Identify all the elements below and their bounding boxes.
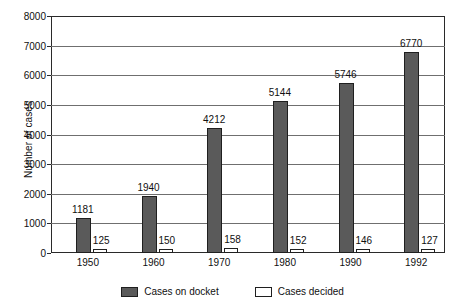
bar-value-label-cases-on-docket: 1940 <box>137 183 159 193</box>
bar-cases-decided <box>356 249 370 253</box>
chart-legend: Cases on docket Cases decided <box>0 286 465 297</box>
gridline <box>51 164 445 165</box>
bar-value-label-cases-decided: 125 <box>93 236 110 246</box>
bar-group: 6770127 <box>404 16 438 253</box>
gridline <box>51 105 445 106</box>
bar-value-label-cases-decided: 127 <box>421 236 438 246</box>
x-axis-tick-label: 1950 <box>77 257 99 268</box>
x-axis-tick-label: 1960 <box>142 257 164 268</box>
bar-group: 1940150 <box>142 16 176 253</box>
legend-item-cases-on-docket: Cases on docket <box>121 286 219 297</box>
gridline <box>51 75 445 76</box>
y-axis-tick-mark <box>47 164 51 165</box>
y-axis-tick-mark <box>47 223 51 224</box>
y-axis-tick-mark <box>47 46 51 47</box>
y-axis-tick-mark <box>47 253 51 254</box>
y-axis-tick-label: 2000 <box>24 188 46 199</box>
y-axis-tick-label: 7000 <box>24 40 46 51</box>
bar-group: 5144152 <box>273 16 307 253</box>
bar-cases-decided <box>421 249 435 253</box>
gridline <box>51 46 445 47</box>
bar-value-label-cases-on-docket: 1181 <box>72 205 94 215</box>
bar-value-label-cases-decided: 158 <box>224 235 241 245</box>
legend-swatch-filled-icon <box>121 287 138 297</box>
x-axis-tick-label: 1970 <box>208 257 230 268</box>
gridline <box>51 194 445 195</box>
bar-cases-on-docket <box>404 52 419 253</box>
x-axis-tick-label: 1980 <box>274 257 296 268</box>
y-axis-tick-mark <box>47 16 51 17</box>
y-axis-tick-label: 4000 <box>24 129 46 140</box>
bar-chart: Number of cases 010002000300040005000600… <box>0 0 465 307</box>
y-axis-tick-mark <box>47 75 51 76</box>
bar-cases-on-docket <box>76 218 91 253</box>
bar-cases-on-docket <box>207 128 222 253</box>
bar-value-label-cases-on-docket: 4212 <box>203 115 225 125</box>
bar-cases-decided <box>224 248 238 253</box>
bar-cases-decided <box>93 249 107 253</box>
plot-area: 010002000300040005000600070008000 118112… <box>51 16 445 253</box>
bar-value-label-cases-decided: 152 <box>290 236 307 246</box>
bar-value-label-cases-decided: 146 <box>356 236 373 246</box>
legend-label-cases-decided: Cases decided <box>278 286 344 297</box>
legend-item-cases-decided: Cases decided <box>255 286 344 297</box>
bar-cases-decided <box>159 249 173 253</box>
x-axis-tick-label: 1990 <box>339 257 361 268</box>
bar-value-label-cases-on-docket: 6770 <box>400 39 422 49</box>
y-axis-tick-label: 6000 <box>24 70 46 81</box>
y-axis-tick-label: 3000 <box>24 159 46 170</box>
y-axis-tick-mark <box>47 194 51 195</box>
bar-value-label-cases-decided: 150 <box>159 236 176 246</box>
bar-group: 4212158 <box>207 16 241 253</box>
bar-value-label-cases-on-docket: 5144 <box>269 88 291 98</box>
bar-cases-decided <box>290 249 304 254</box>
bar-group: 5746146 <box>339 16 373 253</box>
legend-swatch-outline-icon <box>255 287 272 297</box>
y-axis-tick-label: 5000 <box>24 99 46 110</box>
x-axis-tick-label: 1992 <box>405 257 427 268</box>
y-axis-tick-mark <box>47 135 51 136</box>
y-axis-tick-mark <box>47 105 51 106</box>
bar-cases-on-docket <box>142 196 157 253</box>
y-axis-tick-label: 1000 <box>24 218 46 229</box>
gridline <box>51 135 445 136</box>
bar-cases-on-docket <box>339 83 354 253</box>
bar-group: 1181125 <box>76 16 110 253</box>
legend-label-cases-on-docket: Cases on docket <box>144 286 219 297</box>
gridline <box>51 223 445 224</box>
y-axis-tick-label: 0 <box>40 248 46 259</box>
bar-value-label-cases-on-docket: 5746 <box>334 70 356 80</box>
bar-cases-on-docket <box>273 101 288 253</box>
y-axis-tick-label: 8000 <box>24 11 46 22</box>
